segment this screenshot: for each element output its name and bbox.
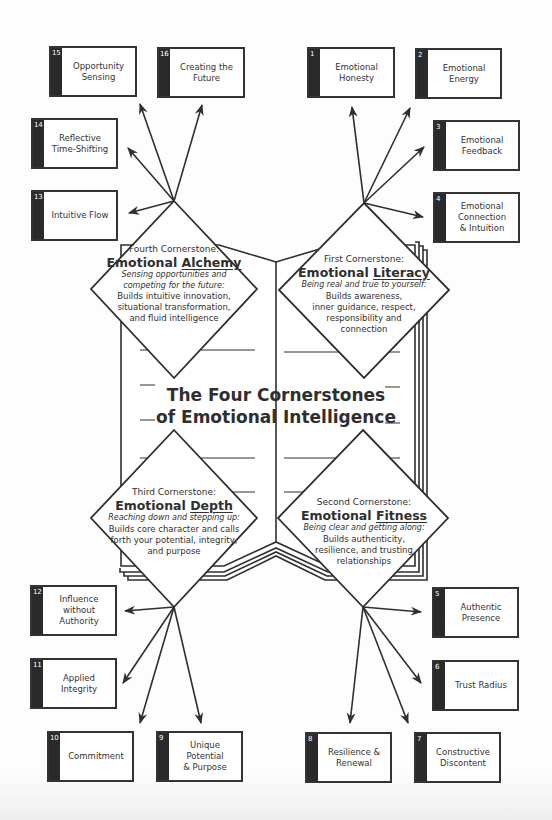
competency-box-1: 1 Emotional Honesty [307, 47, 395, 98]
number-strip: 13 [33, 192, 44, 239]
cornerstone-title: Emotional Literacy [279, 265, 449, 280]
number-strip: 8 [307, 734, 318, 781]
number-strip: 3 [435, 122, 446, 169]
box-label: Constructive Discontent [427, 734, 499, 781]
box-number: 11 [33, 661, 41, 669]
number-strip: 1 [309, 49, 320, 96]
competency-box-3: 3 Emotional Feedback [433, 120, 520, 171]
box-number: 16 [160, 50, 168, 58]
number-strip: 6 [434, 662, 445, 709]
box-number: 8 [308, 735, 312, 743]
box-label: Emotional Honesty [320, 49, 393, 96]
cornerstone-title-prefix: Emotional [107, 255, 178, 270]
cornerstone-tagline: Being clear and getting along: [279, 523, 449, 534]
box-number: 6 [435, 663, 439, 671]
number-strip: 11 [32, 660, 43, 707]
box-number: 1 [310, 50, 314, 58]
competency-box-11: 11 Applied Integrity [30, 658, 117, 709]
box-label: Resilience & Renewal [318, 734, 390, 781]
box-number: 14 [34, 121, 42, 129]
cornerstone-title-prefix: Emotional [298, 265, 369, 280]
competency-box-2: 2 Emotional Energy [415, 48, 502, 99]
cornerstone-tagline: Sensing opportunities and competing for … [89, 270, 259, 291]
number-strip: 10 [49, 733, 60, 780]
cornerstone-fourth-alchemy: Fourth Cornerstone: Emotional Alchemy Se… [89, 244, 259, 324]
number-strip: 4 [435, 194, 446, 241]
number-strip: 7 [416, 734, 427, 781]
cornerstone-body: Builds awareness, inner guidance, respec… [279, 291, 449, 335]
competency-box-10: 10 Commitment [47, 731, 134, 782]
number-strip: 9 [158, 733, 169, 780]
box-number: 5 [435, 590, 439, 598]
box-number: 7 [417, 735, 421, 743]
number-strip: 14 [33, 120, 44, 167]
competency-box-5: 5 Authentic Presence [432, 587, 519, 638]
cornerstone-title-keyword: Literacy [373, 265, 430, 280]
box-number: 15 [52, 49, 60, 57]
box-number: 3 [436, 123, 440, 131]
cornerstone-label: Fourth Cornerstone: [89, 244, 259, 255]
box-label: Emotional Energy [428, 50, 500, 97]
box-number: 4 [436, 195, 440, 203]
competency-box-6: 6 Trust Radius [432, 660, 519, 711]
competency-box-16: 16 Creating the Future [157, 47, 245, 98]
cornerstone-third-depth: Third Cornerstone: Emotional Depth Reach… [89, 487, 259, 557]
competency-box-8: 8 Resilience & Renewal [305, 732, 392, 783]
number-strip: 15 [51, 48, 62, 95]
box-number: 9 [159, 734, 163, 742]
cornerstone-title: Emotional Fitness [279, 508, 449, 523]
number-strip: 5 [434, 589, 445, 636]
box-label: Authentic Presence [445, 589, 517, 636]
competency-box-9: 9 Unique Potential & Purpose [156, 731, 243, 782]
box-label: Emotional Connection & Intuition [446, 194, 518, 241]
number-strip: 2 [417, 50, 428, 97]
competency-box-12: 12 Influence without Authority [30, 585, 117, 636]
diagram-title-line-2: of Emotional Intelligence [140, 406, 412, 428]
cornerstone-title-keyword: Fitness [376, 508, 427, 523]
number-strip: 16 [159, 49, 170, 96]
box-label: Influence without Authority [43, 587, 115, 634]
cornerstone-body: Builds authenticity, resilience, and tru… [279, 534, 449, 567]
cornerstone-label: Third Cornerstone: [89, 487, 259, 498]
diagram-title: The Four Cornerstones of Emotional Intel… [140, 384, 412, 428]
cornerstone-body: Builds intuitive innovation, situational… [89, 291, 259, 324]
box-label: Unique Potential & Purpose [169, 733, 241, 780]
box-label: Trust Radius [445, 662, 517, 709]
cornerstone-label: Second Cornerstone: [279, 497, 449, 508]
cornerstone-second-fitness: Second Cornerstone: Emotional Fitness Be… [279, 497, 449, 567]
cornerstone-title-keyword: Depth [190, 498, 233, 513]
cornerstone-tagline: Reaching down and stepping up: [89, 513, 259, 524]
number-strip: 12 [32, 587, 43, 634]
cornerstone-title-keyword: Alchemy [182, 255, 242, 270]
competency-box-15: 15 Opportunity Sensing [49, 46, 137, 97]
box-number: 13 [34, 193, 42, 201]
box-label: Creating the Future [170, 49, 243, 96]
box-label: Opportunity Sensing [62, 48, 135, 95]
box-label: Emotional Feedback [446, 122, 518, 169]
diagram-title-line-1: The Four Cornerstones [140, 384, 412, 406]
cornerstone-title: Emotional Alchemy [89, 255, 259, 270]
cornerstone-title-prefix: Emotional [115, 498, 186, 513]
cornerstone-body: Builds core character and calls forth yo… [89, 524, 259, 557]
box-number: 2 [418, 51, 422, 59]
competency-box-4: 4 Emotional Connection & Intuition [433, 192, 520, 243]
box-label: Commitment [60, 733, 132, 780]
box-label: Reflective Time-Shifting [44, 120, 116, 167]
box-number: 12 [33, 588, 41, 596]
competency-box-13: 13 Intuitive Flow [31, 190, 118, 241]
cornerstone-title-prefix: Emotional [301, 508, 372, 523]
cornerstone-title: Emotional Depth [89, 498, 259, 513]
box-label: Intuitive Flow [44, 192, 116, 239]
cornerstone-first-literacy: First Cornerstone: Emotional Literacy Be… [279, 254, 449, 335]
competency-box-14: 14 Reflective Time-Shifting [31, 118, 118, 169]
cornerstone-label: First Cornerstone: [279, 254, 449, 265]
box-label: Applied Integrity [43, 660, 115, 707]
cornerstone-tagline: Being real and true to yourself: [279, 280, 449, 291]
competency-box-7: 7 Constructive Discontent [414, 732, 501, 783]
box-number: 10 [50, 734, 58, 742]
